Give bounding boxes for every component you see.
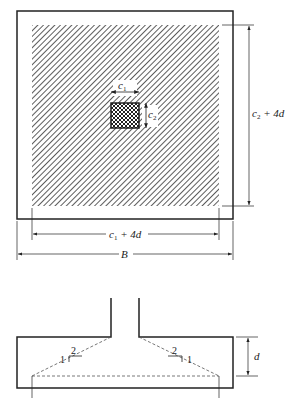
column-crosshatch: [111, 103, 139, 128]
plan-view: c1 c2 c2 + 4d c1 + 4d B: [17, 11, 292, 261]
footing-width-label: B: [121, 248, 128, 260]
footing-section-outline: [17, 298, 233, 388]
slope-left-rise: 1: [60, 354, 65, 365]
slope-right-run: 2: [172, 345, 177, 356]
footing-diagram: c1 c2 c2 + 4d c1 + 4d B 2: [0, 0, 293, 398]
slope-left-run: 2: [71, 345, 76, 356]
depth-label: d: [254, 350, 260, 362]
slope-right-rise: 1: [187, 354, 192, 365]
section-view: 2 1 2 1 d: [17, 298, 260, 398]
